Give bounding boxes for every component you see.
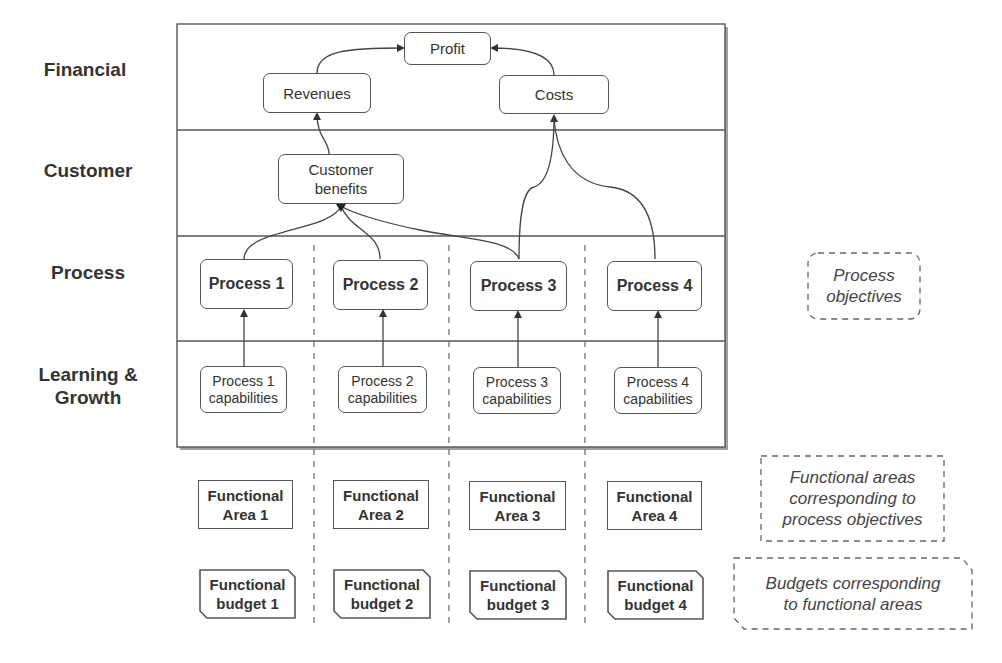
node-functional-budget-1: Functional budget 1 [200,570,295,618]
node-revenues: Revenues [263,73,371,113]
annotation-budgets: Budgets corresponding to functional area… [734,558,972,629]
annotation-functional-areas: Functional areas corresponding to proces… [761,456,944,541]
node-functional-area-4: Functional Area 4 [607,481,702,530]
annotation-process-objectives: Process objectives [808,253,920,319]
node-functional-area-3: Functional Area 3 [469,481,566,530]
node-capabilities-1: Process 1 capabilities [200,366,287,413]
perspective-label-process: Process [3,261,173,284]
node-capabilities-3: Process 3 capabilities [473,367,561,414]
perspective-label-customer: Customer [3,159,173,182]
perspective-label-financial: Financial [0,58,170,81]
node-profit: Profit [404,32,491,65]
node-costs: Costs [499,75,609,114]
node-process-1: Process 1 [200,259,293,309]
node-process-2: Process 2 [333,260,428,310]
perspective-label-learning-growth: Learning & Growth [3,363,173,409]
node-process-4: Process 4 [607,261,702,311]
node-capabilities-4: Process 4 capabilities [614,367,702,414]
node-process-3: Process 3 [470,261,567,311]
node-functional-area-1: Functional Area 1 [198,480,293,529]
node-functional-budget-4: Functional budget 4 [608,571,703,619]
node-customer-benefits: Customer benefits [278,154,404,204]
node-functional-budget-3: Functional budget 3 [470,571,566,619]
node-capabilities-2: Process 2 capabilities [338,366,427,413]
node-functional-budget-2: Functional budget 2 [334,570,430,618]
node-functional-area-2: Functional Area 2 [333,480,429,529]
